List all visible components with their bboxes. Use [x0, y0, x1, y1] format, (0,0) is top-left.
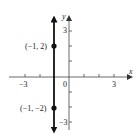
y-tick-label-3: 3: [63, 26, 67, 35]
point-upper: [51, 43, 56, 48]
point-lower: [51, 105, 56, 110]
x-tick-label-neg3: −3: [19, 80, 28, 89]
point-lower-label: (−1, −2): [20, 104, 47, 113]
x-axis-label: x: [128, 67, 133, 76]
y-ticks: [69, 31, 72, 122]
coordinate-plane: y x 3 −3 −3 0 3 (−1, 2) (−1, −2): [0, 0, 139, 134]
y-tick-label-neg3: −3: [59, 118, 68, 127]
x-tick-label-0: 0: [63, 80, 67, 89]
x-tick-label-3: 3: [112, 80, 116, 89]
y-axis-label: y: [61, 12, 66, 21]
x-ticks: [25, 74, 114, 77]
point-upper-label: (−1, 2): [25, 42, 47, 51]
